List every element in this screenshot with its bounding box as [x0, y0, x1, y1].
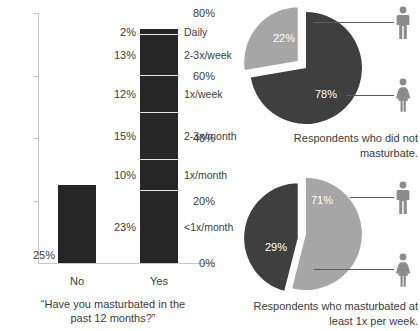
segment-2-3x-month[interactable]: 15% 2-3x/month — [140, 113, 178, 160]
y-axis-line — [38, 13, 39, 264]
pie-bottom-leader-female — [314, 269, 394, 270]
pie-chart-masturbated-weekly: 71% 29% Respondents who masturbated at l… — [218, 166, 420, 331]
survey-figure: 80% 60% 40% 20% 0% 25% 2% Daily 13% 2-3x… — [0, 0, 420, 331]
pie-bottom-slice-female[interactable] — [243, 182, 299, 292]
segment-daily-label: Daily — [184, 26, 207, 38]
bar-no-value-label: 25% — [33, 249, 55, 261]
segment-1x-week[interactable]: 12% 1x/week — [140, 76, 178, 113]
male-icon — [394, 6, 412, 40]
male-icon-svg — [394, 6, 412, 40]
bar-no[interactable] — [58, 185, 96, 263]
pie-top-caption: Respondents who did not masturbate. — [218, 131, 420, 161]
segment-lt-1x-month[interactable]: 23% <1x/month — [140, 191, 178, 263]
pie-top-caption-line2: masturbate. — [218, 146, 418, 161]
bar-chart-caption: “Have you masturbated in the past 12 mon… — [18, 297, 208, 325]
y-tick-40 — [33, 138, 38, 139]
female-icon — [394, 78, 412, 112]
pie-bottom-male-value: 71% — [311, 194, 333, 206]
bar-chart-caption-line1: “Have you masturbated in the — [18, 297, 208, 311]
pie-top-female-value: 78% — [315, 88, 337, 100]
bar-chart: 80% 60% 40% 20% 0% 25% 2% Daily 13% 2-3x… — [0, 0, 215, 331]
pie-bottom-caption-line1: Respondents who masturbated at — [218, 299, 418, 314]
category-label-no: No — [47, 275, 107, 287]
pie-top-leader-female — [346, 95, 394, 96]
segment-1x-week-value: 12% — [114, 88, 136, 100]
segment-1x-week-label: 1x/week — [184, 88, 223, 100]
segment-2-3x-week[interactable]: 13% 2-3x/week — [140, 35, 178, 76]
y-tick-60 — [33, 76, 38, 77]
pie-top-caption-line1: Respondents who did not — [218, 131, 418, 146]
female-icon — [394, 253, 412, 287]
segment-1x-month-value: 10% — [114, 169, 136, 181]
pie-top-svg: 22% 78% — [242, 6, 362, 126]
pie-bottom-female-value: 29% — [265, 241, 287, 253]
segment-2-3x-week-value: 13% — [114, 49, 136, 61]
bar-yes-stack[interactable]: 2% Daily 13% 2-3x/week 12% 1x/week 15% 2… — [140, 29, 178, 263]
pie-chart-did-not-masturbate: 22% 78% Respondents who did not masturba… — [218, 0, 420, 165]
segment-2-3x-month-value: 15% — [114, 130, 136, 142]
y-tick-label-60: 60% — [185, 70, 215, 82]
y-tick-20 — [33, 201, 38, 202]
bar-chart-caption-line2: past 12 months?” — [18, 311, 208, 325]
y-tick-label-20: 20% — [185, 195, 215, 207]
pie-top-leader-male — [314, 22, 394, 23]
pie-bottom-graphic: 71% 29% — [242, 172, 362, 292]
pie-bottom-caption: Respondents who masturbated at least 1x … — [218, 299, 420, 329]
y-tick-label-0: 0% — [185, 257, 215, 269]
pie-bottom-leader-male — [350, 197, 394, 198]
segment-1x-month[interactable]: 10% 1x/month — [140, 160, 178, 191]
category-label-yes: Yes — [129, 275, 189, 287]
pie-top-graphic: 22% 78% — [242, 6, 362, 126]
female-icon-svg — [394, 253, 412, 287]
male-icon-svg — [394, 181, 412, 215]
pie-bottom-svg: 71% 29% — [242, 172, 362, 292]
segment-lt-1x-month-value: 23% — [114, 221, 136, 233]
pie-bottom-caption-line2: least 1x per week. — [218, 314, 418, 329]
y-tick-80 — [33, 13, 38, 14]
segment-daily-value: 2% — [120, 26, 136, 38]
male-icon — [394, 181, 412, 215]
pie-top-male-value: 22% — [273, 32, 295, 44]
female-icon-svg — [394, 78, 412, 112]
y-tick-label-80: 80% — [185, 7, 215, 19]
